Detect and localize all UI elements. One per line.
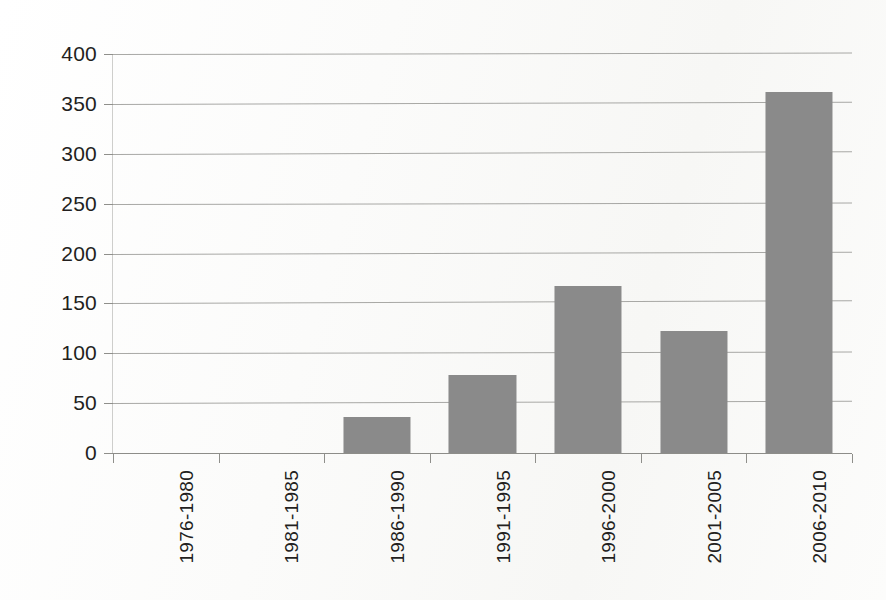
x-axis-tick-label: 2001-2005 <box>704 470 726 600</box>
y-axis-tick-mark <box>104 403 113 404</box>
y-axis-tick-mark <box>104 254 113 255</box>
x-axis-tick-label: 2006-2010 <box>809 470 831 600</box>
x-axis-tick-mark <box>746 454 747 463</box>
y-axis-tick-mark <box>104 303 113 304</box>
bar-chart: 050100150200250300350400 1976-19801981-1… <box>0 0 886 600</box>
y-axis-tick-mark <box>104 453 113 454</box>
y-axis-tick-label: 400 <box>25 43 97 64</box>
x-axis-tick-label: 1996-2000 <box>598 470 620 600</box>
y-axis-tick-mark <box>104 54 113 55</box>
y-axis-tick-label: 0 <box>25 442 97 463</box>
x-axis-tick-label: 1976-1980 <box>176 470 198 600</box>
y-axis-tick-label: 350 <box>25 93 97 114</box>
x-axis-tick-label: 1986-1990 <box>387 470 409 600</box>
x-axis-tick-label: 1991-1995 <box>493 470 515 600</box>
y-axis-tick-mark <box>104 104 113 105</box>
x-axis-tick-mark <box>641 454 642 463</box>
y-axis-tick-mark <box>104 154 113 155</box>
x-axis-tick-mark <box>535 454 536 463</box>
x-axis-tick-mark <box>430 454 431 463</box>
y-axis-tick-mark <box>104 353 113 354</box>
y-axis-tick-label: 300 <box>25 143 97 164</box>
x-axis-tick-mark <box>852 454 853 463</box>
y-axis-tick-label: 200 <box>25 243 97 264</box>
y-axis: 050100150200250300350400 <box>0 0 886 600</box>
x-axis-tick-mark <box>219 454 220 463</box>
y-axis-tick-label: 100 <box>25 342 97 363</box>
y-axis-tick-label: 50 <box>25 392 97 413</box>
x-axis-tick-mark <box>113 454 114 463</box>
x-axis-line <box>113 453 852 454</box>
x-axis-tick-mark <box>324 454 325 463</box>
x-axis-tick-label: 1981-1985 <box>281 470 303 600</box>
y-axis-tick-label: 150 <box>25 292 97 313</box>
y-axis-tick-label: 250 <box>25 193 97 214</box>
y-axis-tick-mark <box>104 204 113 205</box>
